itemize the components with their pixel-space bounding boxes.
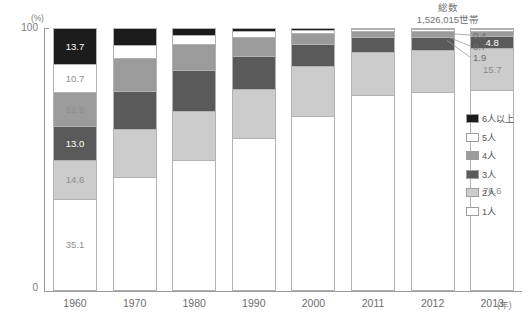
legend-swatch-3人 <box>466 170 479 179</box>
total-value: 1,526,015世帯 <box>388 14 508 26</box>
segment-2012-1人 <box>411 92 455 291</box>
segment-1980-4人 <box>172 44 216 70</box>
legend-label-3人: 3人 <box>482 168 496 181</box>
legend-item-6人以上[interactable]: 6人以上 <box>466 112 514 125</box>
segment-2011-2人 <box>351 52 395 95</box>
segment-2000-6人以上 <box>291 28 335 30</box>
legend-item-4人[interactable]: 4人 <box>466 149 514 162</box>
segment-2011-1人 <box>351 95 395 291</box>
segment-2000-5人 <box>291 30 335 34</box>
x-axis-label-1990: 1990 <box>224 297 284 309</box>
bar-1980[interactable] <box>172 28 216 291</box>
segment-2000-1人 <box>291 116 335 291</box>
legend-item-2人[interactable]: 2人 <box>466 186 514 199</box>
segment-2011-4人 <box>351 31 395 37</box>
legend: 6人以上5人4人3人2人1人 <box>466 112 514 218</box>
legend-item-1人[interactable]: 1人 <box>466 205 514 218</box>
segment-2011-6人以上 <box>351 28 395 29</box>
x-axis-label-2013: 2013 <box>462 297 522 309</box>
bar-2011[interactable] <box>351 28 395 291</box>
segment-1980-1人 <box>172 160 216 292</box>
plot-area: 35.114.613.012.910.713.776.615.74.8 <box>44 28 522 291</box>
segment-1970-6人以上 <box>113 28 157 45</box>
segment-1970-4人 <box>113 58 157 91</box>
segment-2012-6人以上 <box>411 28 455 29</box>
bar-1960[interactable]: 35.114.613.012.910.713.7 <box>53 28 97 291</box>
legend-swatch-5人 <box>466 133 479 142</box>
legend-label-6人以上: 6人以上 <box>482 112 514 125</box>
x-axis-label-1960: 1960 <box>45 297 105 309</box>
legend-swatch-6人以上 <box>466 114 479 123</box>
segment-1970-3人 <box>113 91 157 129</box>
segment-1980-6人以上 <box>172 28 216 35</box>
segment-2011-5人 <box>351 29 395 31</box>
segment-1990-5人 <box>232 31 276 38</box>
segment-1960-4人: 12.9 <box>53 92 97 126</box>
segment-1970-2人 <box>113 129 157 176</box>
bar-2000[interactable] <box>291 28 335 291</box>
callout-value-2: 1.9 <box>473 52 486 63</box>
segment-1960-1人: 35.1 <box>53 199 97 291</box>
segment-2012-3人 <box>411 37 455 51</box>
x-axis-label-1970: 1970 <box>105 297 165 309</box>
y-axis-tick-100: 100 <box>12 22 38 33</box>
segment-2000-2人 <box>291 66 335 116</box>
segment-1990-6人以上 <box>232 28 276 31</box>
segment-1960-2人: 14.6 <box>53 160 97 198</box>
total-households-annotation: 総数 1,526,015世帯 <box>388 2 508 26</box>
segment-value-2013-3人: 4.8 <box>486 38 499 48</box>
legend-label-2人: 2人 <box>482 186 496 199</box>
x-axis-label-1980: 1980 <box>164 297 224 309</box>
callout-value-0: 0.4 <box>473 30 486 41</box>
segment-1960-6人以上: 13.7 <box>53 28 97 64</box>
segment-2012-5人 <box>411 29 455 31</box>
legend-swatch-4人 <box>466 151 479 160</box>
segment-2012-2人 <box>411 50 455 92</box>
x-axis-label-2011: 2011 <box>343 297 403 309</box>
x-axis-label-2000: 2000 <box>283 297 343 309</box>
segment-1990-1人 <box>232 138 276 291</box>
segment-value-1960-4人: 12.9 <box>66 105 85 115</box>
segment-2000-4人 <box>291 33 335 44</box>
segment-1990-2人 <box>232 89 276 139</box>
segment-value-1960-1人: 35.1 <box>66 240 85 250</box>
segment-2011-3人 <box>351 37 395 52</box>
segment-value-1960-2人: 14.6 <box>66 175 85 185</box>
segment-1980-5人 <box>172 35 216 44</box>
segment-1960-3人: 13.0 <box>53 126 97 160</box>
total-label: 総数 <box>388 2 508 14</box>
segment-1990-3人 <box>232 56 276 89</box>
x-axis-line <box>44 291 522 292</box>
bar-1970[interactable] <box>113 28 157 291</box>
segment-value-1960-6人以上: 13.7 <box>66 42 85 52</box>
segment-2012-4人 <box>411 31 455 37</box>
segment-1980-3人 <box>172 70 216 111</box>
legend-item-5人[interactable]: 5人 <box>466 131 514 144</box>
y-axis-tick-0: 0 <box>12 282 38 293</box>
legend-swatch-2人 <box>466 188 479 197</box>
segment-2013-6人以上 <box>470 28 514 29</box>
callout-value-1: 0.7 <box>473 41 486 52</box>
stacked-bar-chart: (%) 100 0 (年) 総数 1,526,015世帯 35.114.613.… <box>0 0 532 328</box>
segment-value-2013-2人: 15.7 <box>483 65 502 75</box>
segment-1970-5人 <box>113 45 157 58</box>
legend-label-4人: 4人 <box>482 149 496 162</box>
segment-1990-4人 <box>232 37 276 55</box>
segment-value-1960-3人: 13.0 <box>66 139 85 149</box>
bar-1990[interactable] <box>232 28 276 291</box>
x-axis-label-2012: 2012 <box>403 297 463 309</box>
legend-label-5人: 5人 <box>482 131 496 144</box>
legend-label-1人: 1人 <box>482 205 496 218</box>
segment-value-1960-5人: 10.7 <box>66 74 85 84</box>
segment-1970-1人 <box>113 177 157 291</box>
segment-2000-3人 <box>291 44 335 66</box>
legend-item-3人[interactable]: 3人 <box>466 168 514 181</box>
bar-2012[interactable] <box>411 28 455 291</box>
segment-1980-2人 <box>172 111 216 160</box>
legend-swatch-1人 <box>466 207 479 216</box>
segment-1960-5人: 10.7 <box>53 64 97 92</box>
